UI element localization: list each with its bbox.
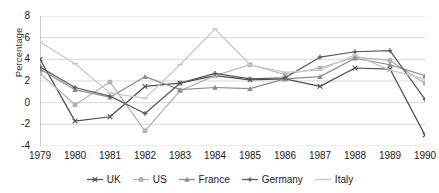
chart-svg — [40, 16, 425, 146]
data-point-marker — [143, 129, 148, 134]
y-tick-label: 6 — [8, 33, 30, 43]
data-point-marker — [247, 177, 252, 182]
chart-legend: UKUSFranceGermanyItaly — [0, 170, 439, 188]
legend-label: Italy — [335, 174, 353, 185]
legend-marker-plus-icon — [241, 175, 259, 184]
data-point-marker — [108, 80, 113, 85]
legend-marker-triangle-icon — [178, 175, 196, 184]
legend-item-france[interactable]: France — [178, 174, 230, 185]
legend-item-uk[interactable]: UK — [86, 174, 121, 185]
legend-label: UK — [107, 174, 121, 185]
legend-label: Germany — [262, 174, 303, 185]
y-axis-tick-labels: 86420-2-4 — [8, 0, 30, 193]
y-tick-label: -2 — [8, 119, 30, 129]
x-axis-tick-labels: 1979198019811982198319841985198619871988… — [40, 150, 425, 164]
legend-item-us[interactable]: US — [132, 174, 167, 185]
chart-container: Percentage 86420-2-4 1979198019811982198… — [0, 0, 439, 193]
legend-label: US — [153, 174, 167, 185]
data-point-marker — [423, 81, 425, 86]
data-point-marker — [138, 177, 143, 182]
legend-item-italy[interactable]: Italy — [314, 174, 353, 185]
data-point-marker — [353, 49, 358, 54]
data-point-marker — [73, 103, 78, 108]
legend-marker-dash-icon — [314, 175, 332, 184]
legend-label: France — [199, 174, 230, 185]
y-tick-label: 4 — [8, 54, 30, 64]
x-tick-label: 1990 — [403, 150, 439, 161]
legend-marker-square-icon — [132, 175, 150, 184]
legend-marker-x-icon — [86, 175, 104, 184]
data-point-marker — [40, 71, 42, 76]
data-point-marker — [388, 58, 393, 63]
legend-item-germany[interactable]: Germany — [241, 174, 303, 185]
y-tick-label: 8 — [8, 11, 30, 21]
plot-area — [40, 16, 425, 146]
series-uk — [40, 57, 425, 137]
y-tick-label: 0 — [8, 98, 30, 108]
data-point-marker — [142, 74, 147, 79]
y-tick-label: 2 — [8, 76, 30, 86]
